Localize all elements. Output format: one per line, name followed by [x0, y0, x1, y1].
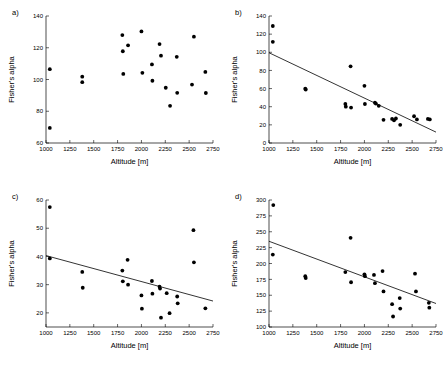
data-point	[48, 126, 52, 130]
panel-letter: c)	[12, 192, 19, 201]
data-point	[175, 91, 179, 95]
data-point	[159, 316, 163, 320]
y-axis-label: Fisher's alpha	[230, 55, 239, 102]
data-point	[126, 43, 130, 47]
x-tick-label: 1500	[87, 330, 101, 336]
x-tick-label: 2250	[159, 330, 173, 336]
data-point	[372, 273, 376, 277]
data-point	[304, 88, 308, 92]
data-point	[150, 279, 154, 283]
data-point	[363, 274, 367, 278]
plot-c: c)10001250150017502000225025002750203040…	[0, 184, 223, 367]
y-tick-label: 120	[33, 45, 44, 51]
data-point	[140, 71, 144, 75]
x-tick-label: 2250	[159, 146, 173, 152]
x-tick-label: 1000	[39, 146, 53, 152]
data-point	[363, 84, 367, 88]
data-point	[398, 296, 402, 300]
y-tick-label: 100	[256, 49, 267, 55]
y-tick-label: 225	[256, 245, 267, 251]
x-tick-label: 2500	[405, 146, 419, 152]
data-point	[271, 40, 275, 44]
data-point	[140, 307, 144, 311]
plot-b: b)10001250150017502000225025002750020406…	[223, 0, 446, 183]
data-point	[192, 35, 196, 39]
data-point	[80, 75, 84, 79]
y-tick-label: 175	[256, 277, 267, 283]
x-tick-label: 2000	[135, 146, 149, 152]
data-point	[150, 63, 154, 67]
data-point	[271, 253, 275, 257]
data-point	[204, 91, 208, 95]
data-point	[349, 64, 353, 68]
data-point	[427, 301, 431, 305]
data-point	[203, 70, 207, 74]
data-point	[203, 306, 207, 310]
x-tick-label: 2750	[429, 146, 443, 152]
data-point	[140, 293, 144, 297]
data-point	[121, 49, 125, 53]
data-point	[120, 33, 124, 37]
y-tick-label: 20	[36, 310, 43, 316]
y-tick-label: 100	[256, 324, 267, 330]
data-point	[382, 118, 386, 122]
x-tick-label: 1500	[87, 146, 101, 152]
x-tick-label: 2000	[358, 146, 372, 152]
y-axis-label: Fisher's alpha	[7, 239, 16, 286]
x-tick-label: 2250	[382, 330, 396, 336]
data-point	[175, 295, 179, 299]
y-tick-label: 80	[36, 108, 43, 114]
panel-b: b)10001250150017502000225025002750020406…	[223, 0, 446, 183]
x-tick-label: 2500	[405, 330, 419, 336]
axis-lines	[46, 16, 213, 143]
y-tick-label: 40	[259, 104, 266, 110]
panel-d: d)10001250150017502000225025002750100125…	[223, 184, 446, 367]
regression-line	[269, 53, 436, 132]
data-point	[165, 291, 169, 295]
data-point	[415, 118, 419, 122]
y-tick-label: 140	[33, 13, 44, 19]
x-tick-label: 1750	[334, 330, 348, 336]
y-tick-label: 60	[36, 140, 43, 146]
data-point	[428, 118, 432, 122]
x-tick-label: 1000	[39, 330, 53, 336]
x-axis-label: Altitude [m]	[334, 341, 372, 350]
x-tick-label: 2500	[182, 146, 196, 152]
data-point	[192, 260, 196, 264]
y-tick-label: 140	[256, 13, 267, 19]
data-point	[158, 287, 162, 291]
y-tick-label: 125	[256, 308, 267, 314]
data-point	[175, 55, 179, 59]
data-point	[121, 72, 125, 76]
data-point	[271, 24, 275, 28]
data-point	[80, 80, 84, 84]
y-tick-label: 30	[36, 282, 43, 288]
data-point	[176, 301, 180, 305]
data-point	[349, 280, 353, 284]
x-tick-label: 2750	[429, 330, 443, 336]
x-tick-label: 2000	[135, 330, 149, 336]
axis-lines	[269, 16, 436, 143]
data-point	[413, 272, 417, 276]
data-point	[363, 102, 367, 106]
y-tick-label: 275	[256, 213, 267, 219]
data-point	[427, 306, 431, 310]
x-tick-label: 1750	[334, 146, 348, 152]
x-axis-label: Altitude [m]	[334, 157, 372, 166]
y-tick-label: 150	[256, 292, 267, 298]
data-point	[349, 106, 353, 110]
y-axis-label: Fisher's alpha	[230, 239, 239, 286]
plot-d: d)10001250150017502000225025002750100125…	[223, 184, 446, 367]
y-tick-label: 80	[259, 68, 266, 74]
x-tick-label: 1750	[111, 330, 125, 336]
panel-c: c)10001250150017502000225025002750203040…	[0, 184, 223, 367]
data-point	[168, 104, 172, 108]
x-tick-label: 1250	[63, 146, 77, 152]
data-point	[158, 42, 162, 46]
y-tick-label: 40	[36, 254, 43, 260]
axis-lines	[269, 200, 436, 327]
x-tick-label: 1750	[111, 146, 125, 152]
data-point	[120, 269, 124, 273]
y-tick-label: 20	[259, 122, 266, 128]
data-point	[126, 258, 130, 262]
